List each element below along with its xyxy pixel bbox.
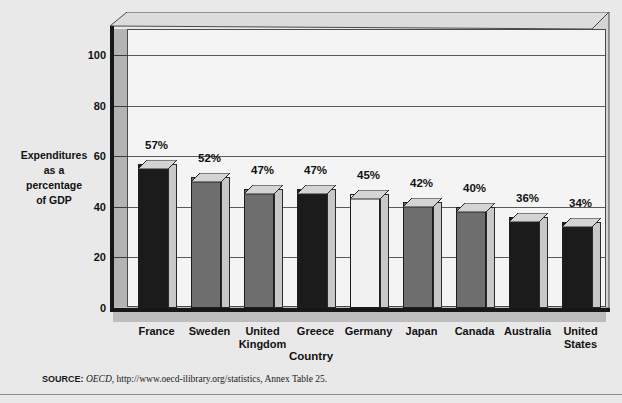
y-tick-label: 100	[88, 50, 106, 61]
y-axis-line	[110, 26, 114, 310]
bar-top-face	[191, 169, 231, 178]
bar-top-face	[244, 181, 284, 190]
x-axis-title: Country	[0, 350, 622, 362]
bar-top-face	[350, 186, 390, 195]
bar-value-label: 45%	[339, 170, 399, 182]
bar-side-face	[592, 222, 601, 308]
chart-plot-area: 57%52%47%47%45%42%40%36%34%	[110, 12, 610, 322]
y-tick-label: 80	[94, 101, 106, 112]
source-publisher: OECD	[86, 374, 112, 384]
bar-top-face	[138, 156, 178, 165]
bar	[562, 222, 592, 308]
bar-side-face	[168, 164, 177, 308]
bar-value-label: 57%	[127, 140, 187, 152]
bar	[244, 189, 274, 308]
bar-side-face	[380, 194, 389, 308]
bar	[509, 217, 539, 308]
source-citation: , http://www.oecd-ilibrary.org/statistic…	[112, 374, 327, 384]
bar	[403, 202, 433, 308]
y-tick-label: 40	[94, 202, 106, 213]
y-tick-label: 60	[94, 151, 106, 162]
bar-side-face	[274, 189, 283, 308]
bar-top-face	[456, 199, 496, 208]
bar-value-label: 47%	[286, 165, 346, 177]
x-tick-label: UnitedStates	[544, 325, 618, 351]
source-label: SOURCE:	[42, 374, 84, 384]
y-tick-label: 20	[94, 252, 106, 263]
y-tick-label: 0	[100, 303, 106, 314]
bar-group: 57%52%47%47%45%42%40%36%34%	[110, 12, 610, 322]
bar-front-face	[456, 207, 486, 308]
bar-top-face	[562, 214, 602, 223]
bar-front-face	[509, 217, 539, 308]
source-note: SOURCE: OECD, http://www.oecd-ilibrary.o…	[42, 374, 327, 384]
bar-value-label: 52%	[180, 153, 240, 165]
bar-top-face	[403, 194, 443, 203]
bar-side-face	[486, 207, 495, 308]
bar-value-label: 40%	[445, 183, 505, 195]
bar	[138, 164, 168, 308]
bar-side-face	[433, 202, 442, 308]
bar-front-face	[244, 189, 274, 308]
bar	[297, 189, 327, 308]
bar-value-label: 34%	[551, 198, 611, 210]
bar-side-face	[539, 217, 548, 308]
source-divider	[0, 394, 622, 395]
y-tick-label-group: 020406080100	[62, 12, 106, 322]
x-tick-label-line: States	[544, 338, 618, 351]
bar	[191, 177, 221, 308]
bar-front-face	[562, 222, 592, 308]
bar-front-face	[191, 177, 221, 308]
x-tick-label-line: United	[544, 325, 618, 338]
bar-front-face	[297, 189, 327, 308]
bar-top-face	[509, 209, 549, 218]
bar-front-face	[350, 194, 380, 308]
bar-value-label: 42%	[392, 178, 452, 190]
figure-panel: Expendituresas apercentageof GDP 0204060…	[0, 0, 622, 403]
x-axis-line	[110, 308, 610, 312]
x-tick-label-line: Kingdom	[226, 338, 300, 351]
bar	[456, 207, 486, 308]
bar-side-face	[327, 189, 336, 308]
bar-front-face	[403, 202, 433, 308]
bar-front-face	[138, 164, 168, 308]
bar-top-face	[297, 181, 337, 190]
bar-value-label: 36%	[498, 193, 558, 205]
bar-side-face	[221, 177, 230, 308]
bar-value-label: 47%	[233, 165, 293, 177]
bar	[350, 194, 380, 308]
